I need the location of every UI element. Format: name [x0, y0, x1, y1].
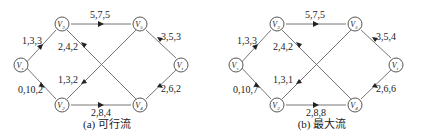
edge-label-v4-t: 2,6,6	[376, 83, 396, 94]
edge-label-s-v3: 1,3,3	[22, 35, 42, 46]
edge-label-v4-v3: 2,4,2	[58, 41, 78, 52]
arrow-icon	[313, 21, 319, 27]
edge-label-v4-v3: 2,4,2	[273, 41, 293, 52]
edge-label-v5-v2: 1,3,1	[273, 74, 293, 85]
caption-b: (b) 最大流	[215, 115, 429, 131]
panel-b-maximum-flow: Vs V3 V2 V5 V4 Vt 1,3,3 0,10,7 5,7,5 2,4…	[215, 0, 429, 139]
panel-a-feasible-flow: Vs V3 V2 V5 V4 Vt 1,3,3 0,10,2 5,7,5 2,4…	[0, 0, 214, 139]
edge-label-s-v2: 0,10,2	[18, 84, 43, 95]
edge-label-v3-v5: 5,7,5	[305, 9, 325, 20]
edge-label-s-v3: 1,3,3	[237, 35, 257, 46]
edge-label-s-v2: 0,10,7	[233, 84, 258, 95]
edge-label-v5-v2: 1,3,2	[58, 74, 78, 85]
edge-label-v5-t: 3,5,3	[161, 31, 181, 42]
arrowheads	[37, 21, 163, 108]
edge-label-v3-v5: 5,7,5	[90, 9, 110, 20]
edge-label-v4-t: 2,6,2	[161, 83, 181, 94]
edge-label-v5-t: 3,5,4	[376, 31, 396, 42]
arrowheads	[252, 21, 378, 108]
arrow-icon	[98, 21, 104, 27]
caption-a: (a) 可行流	[0, 115, 214, 131]
